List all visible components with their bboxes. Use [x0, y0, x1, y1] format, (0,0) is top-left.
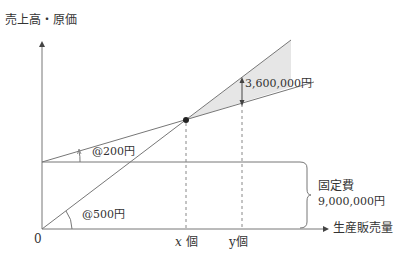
y-axis-label: 売上高・原価 [5, 14, 77, 28]
angle-arc-500 [66, 211, 72, 229]
x-var: x [175, 235, 182, 249]
fixed-cost-title: 固定費 [318, 180, 354, 194]
slope-label-500: @500円 [82, 209, 125, 222]
origin-label: 0 [34, 233, 42, 247]
y-marker-label: y個 [229, 236, 248, 250]
total-cost-line [42, 82, 314, 162]
fixed-cost-brace [300, 162, 311, 228]
sales-line [42, 40, 291, 229]
x-unit: 個 [182, 235, 198, 249]
x-axis-label: 生産販売量 [333, 222, 393, 236]
fixed-cost-value: 9,000,000円 [318, 196, 385, 209]
break-even-point [183, 117, 189, 123]
profit-gap-label: 3,600,000円 [245, 78, 312, 91]
angle-arc-200 [79, 151, 80, 162]
x-marker-label: x 個 [175, 236, 198, 250]
slope-label-200: @200円 [92, 146, 135, 159]
